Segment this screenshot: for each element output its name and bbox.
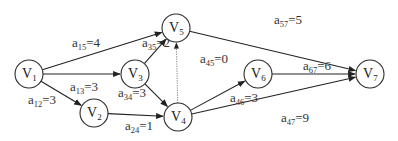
node-v6: V6 — [244, 60, 272, 88]
edge-weight-label: a12=3 — [28, 92, 56, 109]
edge-weight-label: a57=5 — [274, 12, 302, 29]
edge-weight-label: a24=1 — [125, 118, 153, 135]
edge-v4-v7 — [192, 77, 356, 114]
node-v4: V4 — [164, 103, 192, 131]
arrow-icon — [145, 84, 167, 106]
edge-v2-v4 — [108, 114, 163, 117]
arrow-icon — [192, 77, 356, 114]
edge-weight-label: a15=4 — [72, 35, 101, 52]
node-v7: V7 — [356, 60, 384, 88]
node-v2: V2 — [80, 99, 108, 127]
edge-v3-v4 — [145, 84, 167, 106]
activity-network-diagram: V1V2V3V4V5V6V7 a15=4a13=3a12=3a35=2a34=3… — [0, 0, 398, 141]
edge-weight-label: a13=3 — [70, 79, 98, 96]
node-v3: V3 — [121, 60, 149, 88]
arrow-icon — [108, 114, 163, 117]
edge-weight-label: a34=3 — [118, 85, 146, 102]
node-v1: V1 — [15, 60, 43, 88]
edge-weight-label: a35=2 — [142, 35, 170, 52]
edge-weight-label: a46=3 — [230, 90, 258, 107]
edge-weight-label: a45=0 — [200, 51, 228, 68]
edge-weight-label: a67=6 — [303, 58, 332, 75]
edge-weight-label: a47=9 — [281, 110, 309, 127]
arrow-icon — [176, 43, 177, 103]
edge-v4-v5 — [176, 43, 177, 103]
